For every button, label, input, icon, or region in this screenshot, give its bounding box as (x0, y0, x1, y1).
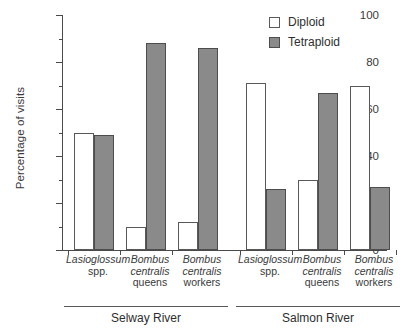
bar-tetraploid-1 (146, 43, 166, 250)
bar-diploid-0 (74, 133, 94, 251)
y-axis-tick (56, 250, 62, 251)
category-caste: workers (342, 277, 404, 289)
group-label-0: Selway River (64, 311, 228, 325)
legend: Diploid Tetraploid (269, 13, 340, 53)
open-square-swatch-icon (269, 17, 280, 28)
y-axis-minor-tick (59, 86, 63, 87)
y-axis-tick-label: 100 (360, 9, 379, 21)
category-caste: workers (170, 277, 234, 289)
y-axis-minor-tick (59, 133, 63, 134)
y-axis-line (62, 15, 63, 250)
bar-tetraploid-2 (198, 48, 218, 250)
y-axis-tick (56, 109, 62, 110)
bar-tetraploid-3 (266, 189, 286, 250)
bar-tetraploid-0 (94, 135, 114, 250)
y-axis-tick (56, 15, 62, 16)
category-labels: Lasioglossumspp.BombuscentralisqueensBom… (62, 254, 387, 302)
category-label-2: Bombuscentralisworkers (170, 254, 234, 289)
y-axis-minor-tick (59, 180, 63, 181)
y-axis-minor-tick (59, 39, 63, 40)
bar-diploid-5 (350, 86, 370, 251)
y-axis-tick (56, 156, 62, 157)
bar-diploid-1 (126, 227, 146, 251)
group-label-1: Salmon River (236, 311, 400, 325)
y-axis-tick (56, 62, 62, 63)
category-genus: Bombus (170, 254, 234, 266)
y-axis-minor-tick (59, 227, 63, 228)
filled-square-swatch-icon (269, 37, 280, 48)
y-axis-title: Percentage of visits (14, 48, 26, 228)
legend-item-diploid: Diploid (269, 13, 340, 31)
group-rule-1 (236, 306, 400, 307)
category-label-5: Bombuscentralisworkers (342, 254, 404, 289)
bar-tetraploid-5 (370, 187, 390, 250)
legend-label: Diploid (288, 15, 325, 29)
bar-diploid-4 (298, 180, 318, 251)
y-axis-tick-label: 80 (366, 56, 379, 68)
group-rule-0 (64, 306, 228, 307)
category-genus: Bombus (342, 254, 404, 266)
legend-item-tetraploid: Tetraploid (269, 33, 340, 51)
legend-label: Tetraploid (288, 35, 340, 49)
bar-diploid-3 (246, 83, 266, 250)
bar-tetraploid-4 (318, 93, 338, 250)
x-axis-line (62, 250, 387, 251)
y-axis-tick (56, 203, 62, 204)
bar-diploid-2 (178, 222, 198, 250)
